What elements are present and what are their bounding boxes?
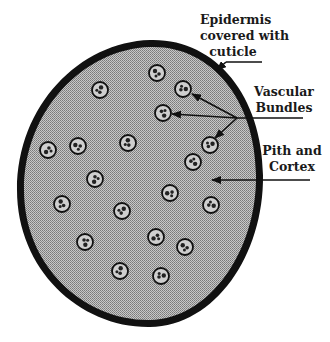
vascular-label-line2: Bundles — [254, 100, 314, 116]
vascular-bundle — [40, 142, 56, 158]
vascular-bundle — [155, 105, 171, 121]
epidermis-label-line3: cuticle — [200, 44, 266, 60]
vascular-bundle — [153, 268, 169, 284]
vascular-bundle — [177, 239, 193, 255]
epidermis-label-line1: Epidermis — [200, 12, 266, 28]
vascular-bundle — [202, 137, 218, 153]
vascular-bundle — [112, 263, 128, 279]
vascular-bundle — [77, 234, 93, 250]
vascular-bundle — [148, 229, 164, 245]
pith-label-line1: Pith and — [262, 143, 322, 159]
vascular-bundle — [114, 203, 130, 219]
vascular-bundle — [92, 82, 108, 98]
pith-cortex-label: Pith and Cortex — [262, 143, 322, 175]
vascular-bundle — [203, 197, 219, 213]
stem-body — [17, 40, 263, 327]
epidermis-label-line2: covered with — [200, 28, 266, 44]
vascular-bundle — [149, 65, 165, 81]
vascular-bundle — [162, 185, 178, 201]
vascular-bundle — [87, 171, 103, 187]
vascular-bundles-label: Vascular Bundles — [254, 84, 314, 116]
vascular-bundle — [185, 154, 201, 170]
pith-label-line2: Cortex — [262, 159, 322, 175]
vascular-bundle — [70, 138, 86, 154]
vascular-label-line1: Vascular — [254, 84, 314, 100]
epidermis-label: Epidermis covered with cuticle — [200, 12, 266, 60]
vascular-bundle — [120, 135, 136, 151]
vascular-bundle — [175, 81, 191, 97]
vascular-bundle — [54, 196, 70, 212]
